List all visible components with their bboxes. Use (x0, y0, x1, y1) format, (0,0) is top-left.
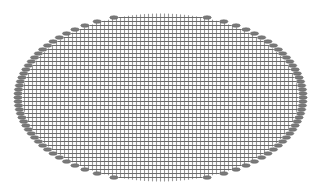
right-edge-marker (232, 168, 240, 172)
left-edge-marker (62, 160, 70, 164)
right-edge-marker (269, 148, 277, 152)
right-edge-marker (257, 36, 265, 40)
right-edge-marker (203, 176, 211, 180)
horizontal-grid-lines (23, 18, 299, 178)
left-edge-marker (16, 112, 24, 116)
left-edge-marker (55, 156, 63, 160)
right-edge-marker (288, 64, 296, 68)
right-edge-marker (285, 60, 293, 64)
left-edge-marker (81, 24, 89, 28)
right-edge-marker (299, 92, 307, 96)
right-edge-marker (269, 44, 277, 48)
left-edge-marker (110, 176, 118, 180)
elliptical-grid-mesh (0, 0, 321, 196)
left-edge-marker (14, 96, 22, 100)
left-edge-marker (34, 140, 42, 144)
left-edge-marker (22, 124, 30, 128)
left-edge-marker (20, 120, 28, 124)
right-edge-marker (250, 32, 258, 36)
left-edge-marker (15, 84, 23, 88)
right-edge-marker (264, 152, 272, 156)
right-edge-marker (288, 128, 296, 132)
right-edge-marker (298, 88, 306, 92)
right-edge-marker (291, 68, 299, 72)
right-edge-marker (293, 120, 301, 124)
left-edge-marker (110, 16, 118, 20)
right-edge-marker (242, 28, 250, 32)
left-edge-marker (24, 64, 32, 68)
left-edge-marker (39, 144, 47, 148)
left-edge-marker (43, 148, 51, 152)
left-edge-marker (24, 128, 32, 132)
right-edge-marker (257, 156, 265, 160)
left-edge-marker (71, 164, 79, 168)
right-edge-marker (242, 164, 250, 168)
left-edge-marker (15, 108, 23, 112)
left-edge-marker (14, 88, 22, 92)
right-edge-marker (298, 104, 306, 108)
right-edge-marker (291, 124, 299, 128)
diagram-canvas (0, 0, 321, 196)
right-edge-marker (250, 160, 258, 164)
right-edge-marker (293, 72, 301, 76)
left-edge-marker (71, 28, 79, 32)
right-edge-marker (285, 132, 293, 136)
left-edge-marker (43, 44, 51, 48)
right-edge-marker (264, 40, 272, 44)
right-edge-marker (220, 172, 228, 176)
left-edge-marker (22, 68, 30, 72)
left-edge-marker (14, 92, 22, 96)
right-edge-marker (282, 56, 290, 60)
right-edge-marker (220, 20, 228, 24)
left-edge-marker (49, 40, 57, 44)
left-edge-marker (93, 20, 101, 24)
right-edge-marker (295, 76, 303, 80)
left-edge-marker (27, 132, 35, 136)
left-edge-marker (34, 52, 42, 56)
right-edge-marker (296, 112, 304, 116)
right-edge-marker (278, 52, 286, 56)
left-edge-marker (93, 172, 101, 176)
left-edge-marker (14, 104, 22, 108)
left-edge-marker (55, 36, 63, 40)
left-edge-marker (39, 48, 47, 52)
right-edge-marker (282, 136, 290, 140)
right-edge-marker (274, 48, 282, 52)
left-edge-marker (18, 116, 26, 120)
right-edge-marker (295, 116, 303, 120)
left-edge-marker (62, 32, 70, 36)
right-edge-marker (299, 100, 307, 104)
right-edge-marker (297, 108, 305, 112)
left-edge-marker (30, 136, 38, 140)
right-edge-marker (274, 144, 282, 148)
right-edge-marker (299, 96, 307, 100)
right-edge-marker (297, 84, 305, 88)
right-edge-marker (278, 140, 286, 144)
left-edge-marker (30, 56, 38, 60)
left-edge-marker (18, 76, 26, 80)
right-edge-marker (203, 16, 211, 20)
left-edge-marker (49, 152, 57, 156)
left-edge-marker (16, 80, 24, 84)
left-edge-marker (14, 100, 22, 104)
right-edge-marker (232, 24, 240, 28)
left-edge-marker (27, 60, 35, 64)
left-edge-marker (20, 72, 28, 76)
right-edge-marker (296, 80, 304, 84)
left-edge-marker (81, 168, 89, 172)
